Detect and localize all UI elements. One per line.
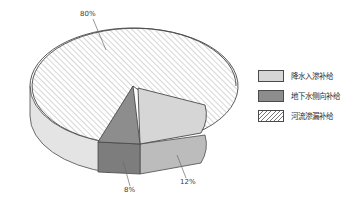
- legend-item-precipitation-recharge[interactable]: 降水入渗补给: [258, 66, 358, 85]
- slice-groundwater-lateral-side: [98, 142, 140, 174]
- slice-label-groundwater-lateral: 8%: [124, 187, 135, 194]
- legend-swatch-hatched: [258, 110, 284, 122]
- legend-item-river-seepage[interactable]: 河流渗漏补给: [258, 106, 358, 125]
- chart-legend: 降水入渗补给 地下水侧向补给 河流渗漏补给: [258, 66, 358, 126]
- slice-label-precipitation-recharge: 12%: [180, 179, 196, 186]
- slice-label-river-seepage: 80%: [80, 11, 96, 18]
- legend-label-groundwater-lateral: 地下水侧向补给: [291, 90, 340, 101]
- legend-item-groundwater-lateral[interactable]: 地下水侧向补给: [258, 86, 358, 105]
- legend-label-river-seepage: 河流渗漏补给: [291, 110, 333, 121]
- legend-swatch-dark-gray: [258, 90, 284, 102]
- legend-swatch-light-gray: [258, 70, 284, 82]
- pie-3d-body: [30, 28, 238, 174]
- legend-label-precipitation-recharge: 降水入渗补给: [291, 70, 333, 81]
